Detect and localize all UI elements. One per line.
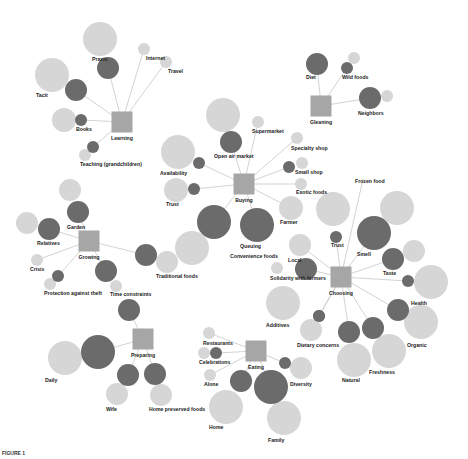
node-light-restaurants <box>203 327 215 339</box>
node-dark-diversity <box>279 357 291 369</box>
node-dark-daily <box>81 335 115 369</box>
node-light-home <box>209 390 243 424</box>
node-dark-relatives <box>38 218 60 240</box>
node-label-taste: Taste <box>383 270 396 276</box>
hub-growing <box>79 231 100 252</box>
network-diagram: PraxisInternetTravelTacitBooksTeaching (… <box>0 0 468 459</box>
node-dark-garden <box>67 201 89 223</box>
node-label-garden: Garden <box>67 224 85 230</box>
node-label-exotic-foods: Exotic foods <box>296 189 327 195</box>
hub-label-eating: Eating <box>248 364 264 370</box>
node-light-health <box>414 265 448 299</box>
node-light-taste <box>403 240 425 262</box>
node-dark-tacit <box>65 79 87 101</box>
hub-preparing <box>133 329 154 350</box>
node-light-books <box>52 108 76 132</box>
node-label-wild-foods: Wild foods <box>342 74 369 80</box>
node-light-wild-foods <box>348 52 360 64</box>
node-label-farmer: Farmer <box>280 219 298 225</box>
node-label-additives: Additives <box>266 322 289 328</box>
node-label-frozen-food: Frozen food <box>355 178 385 184</box>
node-dark-celebrations <box>210 347 222 359</box>
node-dark-availability <box>193 157 205 169</box>
node-dark-books <box>75 114 87 126</box>
node-dark-trust <box>188 183 200 195</box>
node-label-diet: Diet <box>306 74 316 80</box>
node-light-local <box>289 234 311 256</box>
node-label-health: Health <box>411 300 427 306</box>
node-light-neighbors <box>381 90 393 102</box>
node-label-traditional-foods: Traditional foods <box>156 273 198 279</box>
hub-eating <box>246 341 267 362</box>
hub-label-learning: Learning <box>111 135 133 141</box>
node-label-travel: Travel <box>168 68 184 74</box>
node-light-smell <box>380 191 414 225</box>
node-label-daily: Daily <box>45 377 58 383</box>
node-light-trust <box>164 178 188 202</box>
node-label-small-shop: Small shop <box>295 169 323 175</box>
node-light-freshness <box>372 334 406 368</box>
node-label-convenience-foods: Convenience foods <box>230 253 278 259</box>
node-light-small-shop <box>296 157 308 169</box>
node-label-protection-against-theft: Protection against theft <box>44 290 102 296</box>
node-dark-protection-against-theft <box>52 270 64 282</box>
node-dark-natural <box>338 321 360 343</box>
hub-label-choosing: Choosing <box>329 290 353 296</box>
node-label-tacit: Tacit <box>36 92 48 98</box>
node-dark-time-constraints <box>95 260 117 282</box>
node-label-family: Family <box>268 437 285 443</box>
node-light-tacit <box>35 58 69 92</box>
node-light-open-air-market <box>206 98 240 132</box>
node-light-traditional-foods <box>156 251 178 273</box>
node-light-wife <box>106 383 128 405</box>
node-light-diversity <box>290 357 312 379</box>
node-light-home-preserved-foods <box>150 384 172 406</box>
hub-gleaning <box>311 96 332 117</box>
node-label-books: Books <box>76 126 92 132</box>
node-dark-smell <box>357 216 391 250</box>
node-light-family <box>267 401 301 435</box>
node-label-home-preserved-foods: Home preserved foods <box>149 406 205 412</box>
node-label-restaurants: Restaurants <box>203 340 233 346</box>
node-dark-traditional-foods <box>135 244 157 266</box>
node-label-neighbors: Neighbors <box>358 110 384 116</box>
node-label-home: Home <box>209 424 224 430</box>
node-label-relatives: Relatives <box>37 240 60 246</box>
edge-learning-internet <box>122 49 144 122</box>
node-light-natural <box>337 343 371 377</box>
node-dark-dietary-concerns <box>313 310 325 322</box>
node-light-farmer <box>279 196 303 220</box>
node-dark-teaching-grandchildren <box>87 141 99 153</box>
node-light-trust <box>316 192 350 226</box>
node-label-teaching-grandchildren: Teaching (grandchildren) <box>80 161 142 167</box>
node-light-praxis <box>83 22 117 56</box>
node-dark-health <box>402 275 414 287</box>
node-dark-taste <box>382 248 404 270</box>
node-label-availability: Availability <box>160 170 187 176</box>
node-label-trust: Trust <box>166 201 179 207</box>
node-label-time-constraints: Time constraints <box>110 291 152 297</box>
node-light-availability <box>161 135 195 169</box>
node-label-crisis: Crisis <box>30 266 45 272</box>
node-dark-wild-foods <box>341 62 353 74</box>
node-label-local: Local <box>288 257 302 263</box>
node-light-specialty-shop <box>291 132 303 144</box>
node-dark-home <box>230 370 252 392</box>
node-label-alone: Alone <box>204 381 219 387</box>
node-dark-organic <box>387 299 409 321</box>
figure-caption: FIGURE 1 <box>2 450 25 456</box>
node-label-queuing: Queuing <box>240 243 261 249</box>
node-dark-small-shop <box>283 161 295 173</box>
hub-label-gleaning: Gleaning <box>310 119 332 125</box>
node-dark-home-preserved-foods <box>144 363 166 385</box>
node-dark-family <box>254 370 288 404</box>
node-dark-convenience-foods <box>197 205 231 239</box>
hub-buying <box>234 174 255 195</box>
node-light-internet <box>138 43 150 55</box>
node-label-open-air-market: Open air market <box>214 153 254 159</box>
hub-label-preparing: Preparing <box>131 352 155 358</box>
node-label-trust: Trust <box>331 242 344 248</box>
node-label-specialty-shop: Specialty shop <box>291 145 328 151</box>
node-dark-queuing <box>240 208 274 242</box>
node-label-smell: Smell <box>357 251 371 257</box>
